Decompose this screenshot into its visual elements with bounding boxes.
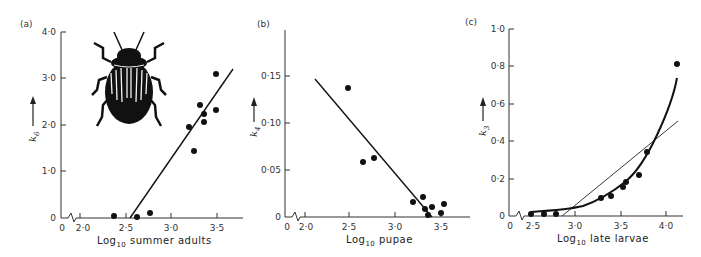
svg-text:0·15: 0·15 (261, 71, 281, 81)
svg-text:k3: k3 (477, 125, 491, 136)
panel-b: (b) 0·15 0·10 0·05 0 0 2·0 2·5 3·0 3·5 L… (248, 19, 470, 248)
y-axis-label: k4 (248, 97, 262, 137)
svg-text:0·2: 0·2 (491, 174, 505, 184)
svg-text:2·5: 2·5 (526, 221, 540, 231)
panel-b-label: (b) (257, 19, 270, 29)
linear-fit-line (562, 121, 678, 216)
svg-text:3·0: 3·0 (568, 221, 583, 231)
svg-text:2·0: 2·0 (42, 120, 57, 130)
data-points (528, 61, 680, 217)
panel-a-label: (a) (20, 19, 33, 29)
svg-text:0: 0 (499, 211, 505, 221)
svg-text:1·0: 1·0 (491, 24, 506, 34)
svg-text:3·5: 3·5 (210, 223, 224, 233)
svg-text:1·0: 1·0 (42, 166, 57, 176)
x-axis-label: Log10 pupae (346, 234, 413, 248)
panel-c: (c) 1·0 0·8 0·6 0·4 0·2 0 0 2·5 3·0 3·5 … (465, 17, 683, 247)
arrow-up-icon (251, 97, 257, 106)
y-axis-label: k6 (27, 96, 41, 142)
svg-text:3·0: 3·0 (42, 73, 57, 83)
y-ticks: 1·0 0·8 0·6 0·4 0·2 0 (491, 24, 514, 221)
svg-text:0: 0 (59, 223, 65, 233)
svg-text:0: 0 (507, 221, 513, 231)
svg-text:4·0: 4·0 (659, 221, 674, 231)
svg-text:2·5: 2·5 (342, 222, 356, 232)
svg-text:0·4: 0·4 (491, 136, 506, 146)
figure: (a) 4·0 3·0 2·0 1·0 0 0 2·0 2·5 3·0 3·5 … (0, 0, 701, 257)
svg-text:0: 0 (50, 213, 56, 223)
data-points (345, 85, 447, 218)
svg-text:0·6: 0·6 (491, 99, 506, 109)
svg-text:2·5: 2·5 (119, 223, 133, 233)
svg-text:3·5: 3·5 (434, 222, 448, 232)
svg-text:3·0: 3·0 (388, 222, 403, 232)
svg-text:0·8: 0·8 (491, 61, 506, 71)
panel-a: (a) 4·0 3·0 2·0 1·0 0 0 2·0 2·5 3·0 3·5 … (20, 19, 243, 249)
y-ticks: 4·0 3·0 2·0 1·0 0 (42, 27, 66, 223)
svg-text:0: 0 (275, 212, 281, 222)
y-ticks: 0·15 0·10 0·05 0 (261, 71, 290, 222)
x-ticks: 0 2·0 2·5 3·0 3·5 (59, 213, 224, 233)
y-axis-label: k3 (477, 97, 491, 136)
panel-c-label: (c) (465, 17, 477, 27)
svg-text:3·5: 3·5 (614, 221, 628, 231)
svg-text:0: 0 (284, 222, 290, 232)
svg-text:2·0: 2·0 (76, 223, 91, 233)
svg-text:4·0: 4·0 (42, 27, 57, 37)
x-ticks: 0 2·0 2·5 3·0 3·5 (284, 212, 448, 232)
svg-text:k6: k6 (27, 131, 41, 142)
curve-fit-line (531, 78, 677, 212)
svg-text:0·05: 0·05 (261, 165, 281, 175)
regression-line (315, 79, 432, 217)
svg-text:2·0: 2·0 (299, 222, 314, 232)
x-axis-label: Log10 late larvae (557, 233, 649, 247)
arrow-up-icon (30, 96, 36, 104)
x-axis-label: Log10 summer adults (97, 235, 212, 249)
svg-text:k4: k4 (248, 126, 262, 137)
arrow-up-icon (480, 97, 486, 106)
beetle-illustration (92, 32, 166, 126)
x-axis-break (516, 211, 683, 220)
svg-text:0·10: 0·10 (261, 118, 281, 128)
svg-text:3·0: 3·0 (164, 223, 179, 233)
